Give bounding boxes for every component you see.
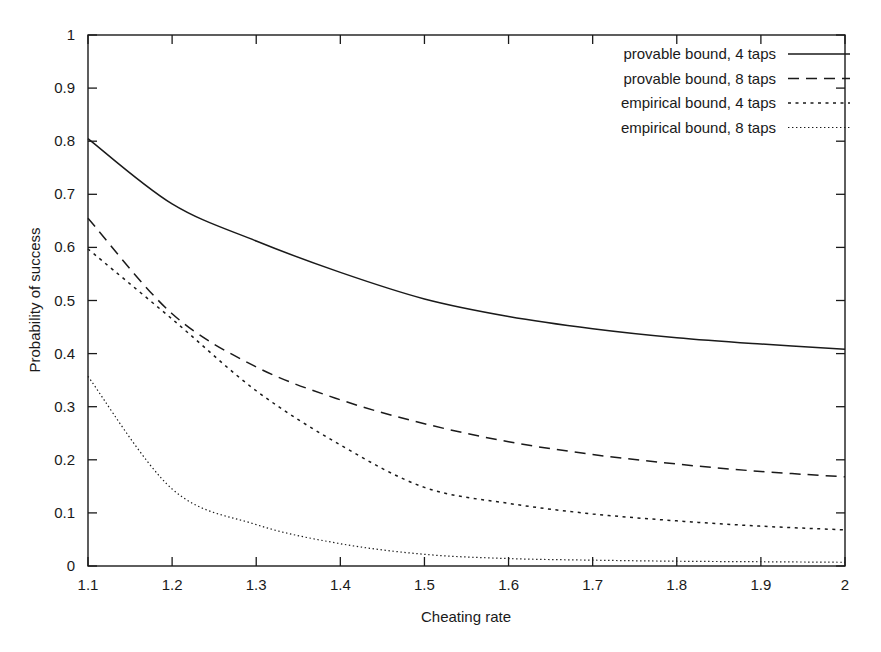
y-tick-label: 0 xyxy=(67,557,75,574)
data-series-group xyxy=(88,139,845,563)
x-tick-label: 2 xyxy=(841,576,849,593)
y-axis-ticks xyxy=(88,35,845,566)
x-tick-label: 1.2 xyxy=(162,576,183,593)
y-tick-label: 0.2 xyxy=(54,451,75,468)
x-axis-ticks xyxy=(88,35,845,566)
series-line-2 xyxy=(88,249,845,530)
line-chart: 1.11.21.31.41.51.61.71.81.92 00.10.20.30… xyxy=(0,0,881,652)
y-tick-label: 0.3 xyxy=(54,398,75,415)
y-tick-label: 0.7 xyxy=(54,185,75,202)
legend-label-0: provable bound, 4 taps xyxy=(623,45,776,62)
series-line-1 xyxy=(88,218,845,477)
series-line-0 xyxy=(88,139,845,350)
x-tick-label: 1.7 xyxy=(582,576,603,593)
y-tick-label: 0.6 xyxy=(54,238,75,255)
legend-label-2: empirical bound, 4 taps xyxy=(621,94,776,111)
plot-frame xyxy=(88,35,845,566)
x-tick-label: 1.6 xyxy=(498,576,519,593)
y-tick-label: 0.5 xyxy=(54,292,75,309)
x-tick-label: 1.5 xyxy=(414,576,435,593)
y-tick-label: 0.1 xyxy=(54,504,75,521)
x-tick-label: 1.4 xyxy=(330,576,351,593)
x-axis-tick-labels: 1.11.21.31.41.51.61.71.81.92 xyxy=(78,576,850,593)
x-axis-title: Cheating rate xyxy=(421,608,511,625)
y-tick-label: 1 xyxy=(67,26,75,43)
y-axis-tick-labels: 00.10.20.30.40.50.60.70.80.91 xyxy=(54,26,75,574)
y-tick-label: 0.8 xyxy=(54,132,75,149)
chart-legend: provable bound, 4 tapsprovable bound, 8 … xyxy=(621,45,850,136)
x-tick-label: 1.1 xyxy=(78,576,99,593)
chart-figure: 1.11.21.31.41.51.61.71.81.92 00.10.20.30… xyxy=(0,0,881,652)
x-tick-label: 1.8 xyxy=(666,576,687,593)
legend-label-1: provable bound, 8 taps xyxy=(623,70,776,87)
legend-label-3: empirical bound, 8 taps xyxy=(621,119,776,136)
x-tick-label: 1.3 xyxy=(246,576,267,593)
y-axis-title: Probability of success xyxy=(26,227,43,372)
series-line-3 xyxy=(88,376,845,562)
x-tick-label: 1.9 xyxy=(750,576,771,593)
y-tick-label: 0.9 xyxy=(54,79,75,96)
y-tick-label: 0.4 xyxy=(54,345,75,362)
